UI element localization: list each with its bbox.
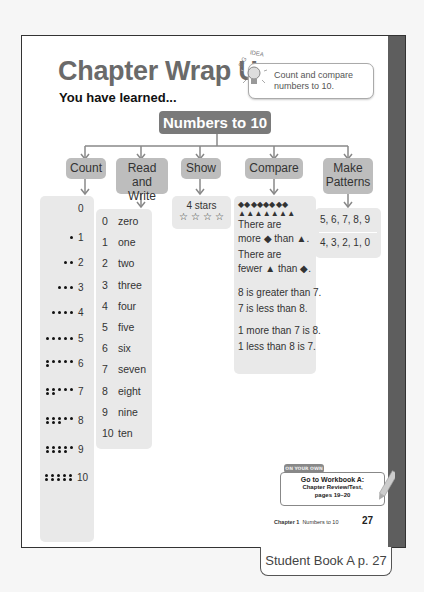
diamonds-icon: ◆◆◆◆◆◆◆◆ (238, 200, 288, 209)
dot (58, 337, 61, 340)
dot (58, 286, 61, 289)
dot (46, 417, 49, 420)
numeral: 6 (102, 342, 118, 354)
number-word: ten (118, 427, 133, 439)
read-write-row: 2two (102, 257, 134, 269)
number-word: three (118, 279, 142, 291)
show-box: 4 stars ☆ ☆ ☆ ☆ (172, 196, 231, 229)
footer-chapter-title: Numbers to 10 (302, 519, 338, 525)
count-row: 10 (45, 472, 88, 483)
dot (70, 360, 73, 363)
compare-line: 7 is less than 8. (238, 302, 307, 315)
count-number: 8 (78, 415, 88, 426)
numeral: 4 (102, 300, 118, 312)
show-label: 4 stars (172, 200, 231, 211)
number-word: zero (118, 215, 138, 227)
number-word: nine (118, 406, 138, 418)
dot (46, 450, 49, 453)
dot (64, 450, 67, 453)
dot (52, 388, 55, 391)
footer-chapter-number: Chapter 1 (274, 519, 299, 525)
dot (51, 474, 54, 477)
count-row: 7 (46, 386, 88, 397)
dots-icon (46, 388, 74, 395)
dot (64, 360, 67, 363)
pattern-divider (319, 232, 377, 233)
dot (70, 388, 73, 391)
big-idea-line-1: Count and compare (274, 70, 353, 81)
triangles-icon: ▲▲▲▲▲▲▲ (238, 209, 296, 218)
numeral: 2 (102, 257, 118, 269)
dot (52, 337, 55, 340)
count-number: 10 (77, 472, 88, 483)
compare-box: ◆◆◆◆◆◆◆◆ ▲▲▲▲▲▲▲ There are more ◆ than ▲… (234, 196, 316, 374)
category-make-patterns: Make Patterns (323, 158, 373, 194)
dot (64, 311, 67, 314)
count-row: 1 (46, 232, 88, 243)
dot (64, 261, 67, 264)
lightbulb-icon: BIG IDEA (236, 49, 276, 93)
compare-line: 1 more than 7 is 8. (238, 324, 321, 337)
count-number: 2 (78, 257, 88, 268)
category-label: Write (116, 189, 168, 203)
dot (52, 392, 55, 395)
dot (69, 478, 72, 481)
dot (52, 421, 55, 424)
number-word: four (118, 300, 136, 312)
dot (70, 236, 73, 239)
compare-line: more ◆ than ▲. (238, 232, 309, 245)
page-subtitle: You have learned... (59, 90, 177, 105)
category-label: Make (323, 161, 373, 175)
number-word: five (118, 321, 134, 333)
category-label: Count (66, 161, 106, 175)
dot (52, 360, 55, 363)
read-write-row: 8eight (102, 385, 141, 397)
read-write-row: 0zero (102, 215, 138, 227)
dot (70, 261, 73, 264)
dot (51, 478, 54, 481)
count-row: 3 (46, 282, 88, 293)
svg-text:IDEA: IDEA (250, 49, 265, 57)
textbook-page: Chapter Wrap Up You have learned... Coun… (21, 35, 406, 548)
number-word: one (118, 236, 136, 248)
count-row: 8 (46, 415, 88, 426)
dot (70, 446, 73, 449)
dot (64, 446, 67, 449)
dot (46, 392, 49, 395)
on-your-own-box: Go to Workbook A: Chapter Review/Test, p… (280, 472, 385, 506)
category-label: Patterns (323, 175, 373, 189)
count-row: 0 (78, 203, 88, 214)
workbook-link: Go to Workbook A: (281, 476, 384, 483)
dot (46, 388, 49, 391)
count-number: 3 (78, 282, 88, 293)
numeral: 1 (102, 236, 118, 248)
count-number: 1 (78, 232, 88, 243)
category-read-and-write: Read and Write (116, 158, 168, 194)
dot (45, 474, 48, 477)
count-row: 5 (46, 333, 88, 344)
read-write-box: 0zero1one2two3three4four5five6six7seven8… (96, 209, 152, 449)
numeral: 9 (102, 406, 118, 418)
number-word: two (118, 257, 134, 269)
dot (70, 286, 73, 289)
dot (64, 337, 67, 340)
dots-icon (45, 474, 73, 481)
dot (70, 337, 73, 340)
dot (46, 360, 49, 363)
read-write-row: 5five (102, 321, 134, 333)
read-write-row: 1one (102, 236, 136, 248)
count-row: 9 (46, 444, 88, 455)
dots-icon (46, 446, 74, 453)
dot (58, 446, 61, 449)
numeral: 8 (102, 385, 118, 397)
dot (52, 417, 55, 420)
dot (46, 446, 49, 449)
dot (52, 450, 55, 453)
dot (58, 388, 61, 391)
number-word: eight (118, 385, 141, 397)
numeral: 10 (102, 427, 118, 439)
dot (58, 311, 61, 314)
count-row: 4 (46, 307, 88, 318)
numeral: 0 (102, 215, 118, 227)
dot (70, 311, 73, 314)
